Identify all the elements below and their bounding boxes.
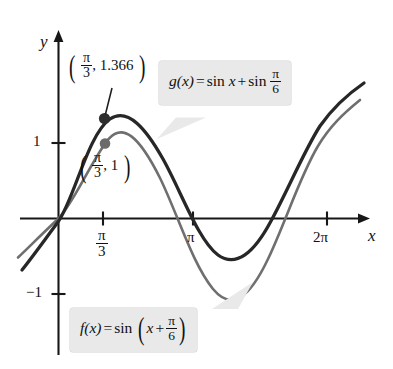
function-argument: (x) (84, 319, 101, 336)
function-graph-figure: y x 1 −1 π 3 π 2π ( π 3 , 1.366 ) ( π 3 … (0, 0, 393, 369)
x-axis-label: x (368, 227, 376, 244)
point-y-value: 1.366 (100, 57, 134, 73)
x-tick-label-2pi: 2π (313, 230, 328, 245)
equals-sign: = (102, 319, 115, 336)
function-name-g: g (169, 72, 177, 89)
plus-sign: + (236, 72, 249, 89)
y-axis-arrowhead (54, 30, 64, 42)
g-callout-tail (157, 118, 206, 140)
fraction-denominator: 6 (166, 328, 177, 343)
plus-sign: + (153, 319, 166, 336)
x-tick-label-pi-over-3: π 3 (96, 229, 108, 261)
fraction-denominator: 3 (92, 165, 103, 180)
comma-separator: , (103, 157, 111, 173)
fraction-pi-over-6: π 6 (270, 67, 281, 96)
y-tick-label-neg1: −1 (26, 285, 42, 300)
x-axis-arrowhead (358, 214, 370, 224)
point-y-value: 1 (111, 157, 119, 173)
fraction-numerator: π (96, 228, 108, 243)
f-function-callout: f(x)=sin (x+ π 6 ) (70, 308, 197, 352)
fraction-denominator: 3 (96, 243, 108, 259)
fraction-numerator: π (270, 67, 281, 81)
g-point-leader-line (106, 88, 113, 114)
function-argument: (x) (177, 72, 194, 89)
sin-operator: sin (114, 319, 132, 336)
left-paren: ( (138, 317, 144, 341)
f-max-point-label: ( π 3 , 1 ) (78, 152, 132, 182)
x-tick-label-pi: π (187, 230, 195, 245)
right-paren: ) (139, 55, 145, 79)
g-max-point-dot (99, 113, 110, 124)
f-max-point-dot (100, 138, 111, 149)
fraction-pi-over-3: π 3 (81, 51, 92, 81)
fraction-pi-over-3: π 3 (92, 151, 103, 181)
left-paren: ( (80, 155, 86, 179)
right-paren: ) (179, 317, 185, 341)
fraction-pi-over-3: π 3 (96, 228, 108, 260)
equals-sign: = (194, 72, 207, 89)
g-max-point-label: ( π 3 , 1.366 ) (67, 52, 147, 82)
fraction-numerator: π (81, 51, 92, 65)
y-axis-label: y (40, 33, 48, 50)
fraction-pi-over-6: π 6 (166, 314, 177, 343)
fraction-numerator: π (92, 151, 103, 165)
comma-separator: , (92, 57, 100, 73)
right-paren: ) (124, 155, 130, 179)
left-paren: ( (69, 55, 75, 79)
fraction-numerator: π (166, 314, 177, 328)
variable-x: x (229, 72, 236, 89)
fraction-denominator: 3 (81, 65, 92, 80)
sin-operator-2: sin (248, 72, 266, 89)
y-tick-label-1: 1 (33, 134, 41, 149)
fraction-denominator: 6 (270, 81, 281, 96)
sin-operator-1: sin (207, 72, 225, 89)
g-function-callout: g(x)=sin x+sin π 6 (159, 61, 291, 105)
